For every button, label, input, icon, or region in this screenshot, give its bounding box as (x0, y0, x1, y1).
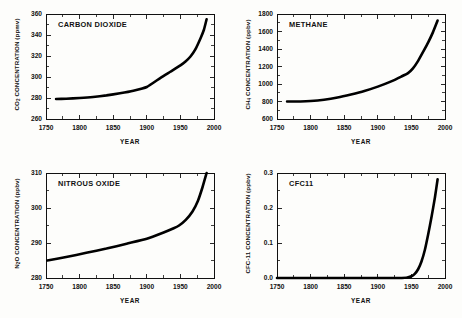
svg-text:1900: 1900 (139, 283, 154, 290)
svg-text:310: 310 (31, 169, 42, 176)
svg-text:2000: 2000 (438, 283, 453, 290)
panel-title-ch4: METHANE (289, 20, 328, 29)
svg-text:1900: 1900 (139, 124, 154, 131)
svg-text:300: 300 (31, 204, 42, 211)
panel-carbon-dioxide: 1750180018501900195020002602803003203403… (0, 0, 231, 159)
svg-text:1800: 1800 (72, 124, 87, 131)
svg-text:1800: 1800 (303, 124, 318, 131)
panel-title-co2: CARBON DIOXIDE (58, 20, 127, 29)
svg-text:0.0: 0.0 (264, 274, 273, 281)
svg-text:1800: 1800 (72, 283, 87, 290)
svg-text:800: 800 (262, 98, 273, 105)
x-axis-label-co2: YEAR (46, 138, 214, 145)
svg-text:300: 300 (31, 73, 42, 80)
svg-text:280: 280 (31, 274, 42, 281)
svg-text:340: 340 (31, 31, 42, 38)
svg-text:1800: 1800 (303, 283, 318, 290)
y-axis-label-co2: CO2 CONCENTRATION (ppmv) (13, 12, 20, 117)
y-axis-label-ch4: CH4 CONCENTRATION (ppbv) (244, 12, 251, 117)
svg-text:1850: 1850 (106, 124, 121, 131)
svg-text:0.2: 0.2 (264, 204, 273, 211)
svg-text:600: 600 (262, 115, 273, 122)
svg-text:1950: 1950 (173, 124, 188, 131)
svg-text:1900: 1900 (370, 124, 385, 131)
svg-text:260: 260 (31, 115, 42, 122)
svg-text:0.3: 0.3 (264, 169, 273, 176)
svg-text:0.1: 0.1 (264, 239, 273, 246)
svg-text:2000: 2000 (207, 283, 222, 290)
svg-text:2000: 2000 (438, 124, 453, 131)
svg-text:1950: 1950 (173, 283, 188, 290)
svg-text:1750: 1750 (270, 124, 285, 131)
panel-title-cfc11: CFC11 (289, 179, 314, 188)
svg-text:280: 280 (31, 94, 42, 101)
svg-text:1750: 1750 (39, 283, 54, 290)
svg-text:360: 360 (31, 10, 42, 17)
svg-text:1600: 1600 (258, 28, 273, 35)
panel-cfc11: 1750180018501900195020000.00.10.20.3 CFC… (231, 159, 462, 318)
svg-text:1000: 1000 (258, 80, 273, 87)
svg-text:1850: 1850 (337, 283, 352, 290)
plot-area-ch4: 1750180018501900195020006008001000120014… (231, 0, 462, 159)
svg-text:1750: 1750 (270, 283, 285, 290)
svg-text:320: 320 (31, 52, 42, 59)
svg-text:290: 290 (31, 239, 42, 246)
y-axis-label-n2o: N2O CONCENTRATION (ppbv) (13, 171, 20, 276)
svg-text:1850: 1850 (337, 124, 352, 131)
svg-text:1950: 1950 (404, 124, 419, 131)
svg-text:1950: 1950 (404, 283, 419, 290)
y-axis-label-cfc11: CFC-11 CONCENTRATION (ppbv) (244, 171, 251, 276)
x-axis-label-cfc11: YEAR (277, 297, 445, 304)
svg-text:1750: 1750 (39, 124, 54, 131)
panel-title-n2o: NITROUS OXIDE (58, 179, 120, 188)
svg-text:1800: 1800 (258, 10, 273, 17)
panel-nitrous-oxide: 175018001850190019502000280290300310 NIT… (0, 159, 231, 318)
x-axis-label-n2o: YEAR (46, 297, 214, 304)
plot-area-cfc11: 1750180018501900195020000.00.10.20.3 (231, 159, 462, 318)
x-axis-label-ch4: YEAR (277, 138, 445, 145)
svg-text:1400: 1400 (258, 45, 273, 52)
svg-text:2000: 2000 (207, 124, 222, 131)
panel-methane: 1750180018501900195020006008001000120014… (231, 0, 462, 159)
svg-text:1850: 1850 (106, 283, 121, 290)
greenhouse-gas-figure: 1750180018501900195020002602803003203403… (0, 0, 462, 318)
svg-text:1900: 1900 (370, 283, 385, 290)
svg-text:1200: 1200 (258, 63, 273, 70)
